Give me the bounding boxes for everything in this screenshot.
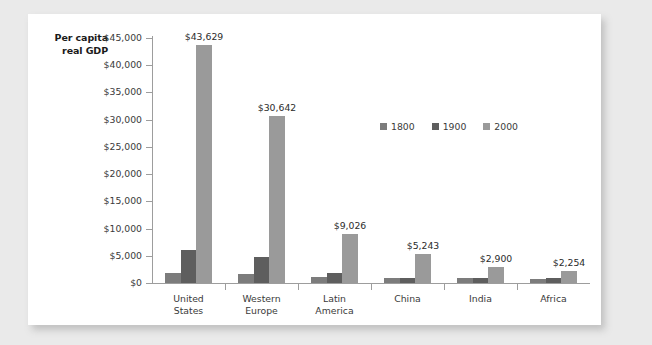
bar-1900-china: [400, 278, 416, 283]
category-label-line: Africa: [514, 293, 594, 305]
category-label-china: China: [368, 293, 448, 305]
x-tick-mark: [371, 284, 372, 290]
y-tick-label: $20,000: [80, 168, 142, 179]
bar-1800-latin-america: [311, 277, 327, 283]
grouped-bar-chart: Per capita real GDP $0$5,000$10,000$15,0…: [28, 14, 601, 325]
legend-swatch-icon: [432, 123, 439, 130]
y-tick-label: $15,000: [80, 195, 142, 206]
category-label-line: America: [295, 305, 375, 317]
chart-legend: 180019002000: [380, 121, 518, 132]
category-label-line: India: [441, 293, 521, 305]
category-label-western-europe: WesternEurope: [222, 293, 302, 317]
bar-value-label: $5,243: [393, 240, 453, 251]
bar-value-label: $2,900: [466, 253, 526, 264]
category-label-united-states: UnitedStates: [149, 293, 229, 317]
x-tick-mark: [225, 284, 226, 290]
legend-item-1900[interactable]: 1900: [432, 121, 467, 132]
x-tick-mark: [517, 284, 518, 290]
category-label-india: India: [441, 293, 521, 305]
category-label-line: Europe: [222, 305, 302, 317]
legend-swatch-icon: [380, 123, 387, 130]
bar-2000-western-europe: [269, 116, 285, 283]
y-tick-mark: [146, 201, 153, 202]
y-tick-label: $30,000: [80, 114, 142, 125]
category-label-line: States: [149, 305, 229, 317]
y-tick-mark: [146, 283, 153, 284]
bar-1800-africa: [530, 279, 546, 283]
bar-1900-africa: [546, 278, 562, 283]
category-label-line: Latin: [295, 293, 375, 305]
bar-1900-india: [473, 278, 489, 283]
legend-label: 1800: [391, 121, 415, 132]
y-tick-mark: [146, 174, 153, 175]
category-label-line: United: [149, 293, 229, 305]
bar-2000-africa: [561, 271, 577, 283]
category-label-line: China: [368, 293, 448, 305]
chart-card: Per capita real GDP $0$5,000$10,000$15,0…: [28, 14, 601, 325]
y-tick-mark: [146, 147, 153, 148]
bar-1800-western-europe: [238, 274, 254, 283]
bar-1900-western-europe: [254, 257, 270, 283]
bar-1900-united-states: [181, 250, 197, 283]
y-tick-mark: [146, 65, 153, 66]
x-tick-mark: [444, 284, 445, 290]
bar-1900-latin-america: [327, 273, 343, 283]
bar-1800-united-states: [165, 273, 181, 283]
bar-2000-china: [415, 254, 431, 283]
category-label-latin-america: LatinAmerica: [295, 293, 375, 317]
y-tick-label: $25,000: [80, 141, 142, 152]
y-tick-mark: [146, 38, 153, 39]
category-label-line: Western: [222, 293, 302, 305]
y-tick-label: $40,000: [80, 59, 142, 70]
legend-label: 2000: [494, 121, 518, 132]
y-axis-line: [152, 36, 153, 284]
bar-value-label: $2,254: [539, 257, 599, 268]
bar-2000-india: [488, 267, 504, 283]
legend-label: 1900: [443, 121, 467, 132]
y-tick-label: $10,000: [80, 223, 142, 234]
bar-1800-india: [457, 278, 473, 283]
legend-swatch-icon: [483, 123, 490, 130]
y-tick-label: $45,000: [80, 32, 142, 43]
bar-value-label: $43,629: [174, 31, 234, 42]
category-label-africa: Africa: [514, 293, 594, 305]
bar-value-label: $9,026: [320, 220, 380, 231]
y-tick-mark: [146, 229, 153, 230]
y-tick-mark: [146, 120, 153, 121]
legend-item-2000[interactable]: 2000: [483, 121, 518, 132]
y-tick-label: $35,000: [80, 86, 142, 97]
legend-item-1800[interactable]: 1800: [380, 121, 415, 132]
bar-2000-latin-america: [342, 234, 358, 283]
y-tick-label: $5,000: [80, 250, 142, 261]
y-tick-mark: [146, 256, 153, 257]
bar-value-label: $30,642: [247, 102, 307, 113]
bar-1800-china: [384, 278, 400, 283]
x-tick-mark: [298, 284, 299, 290]
y-tick-label: $0: [80, 277, 142, 288]
y-tick-mark: [146, 92, 153, 93]
bar-2000-united-states: [196, 45, 212, 283]
